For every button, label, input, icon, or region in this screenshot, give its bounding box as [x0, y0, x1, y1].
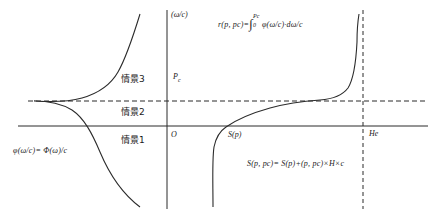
integral-integrand: φ(ω/c): [262, 20, 284, 29]
integral-upper-limit: Pc: [253, 13, 260, 19]
integral-formula: r(p, pc)=∫Pc0 φ(ω/c)·dω/c: [218, 16, 303, 29]
threshold-label: Pc: [173, 73, 181, 83]
density-formula-lhs: φ(ω/c)=: [13, 146, 41, 155]
integral-limits: Pc0: [253, 15, 260, 27]
region-label-scenario-1: 情景1: [121, 136, 145, 145]
integral-formula-lhs: r(p, pc)=: [218, 20, 249, 29]
density-formula-rhs: Φ(ω)/c: [43, 146, 67, 155]
integral-measure: ·dω/c: [284, 20, 302, 29]
diagram-svg: [0, 0, 432, 218]
integral-lower-limit: 0: [253, 22, 260, 28]
origin-label: O: [171, 131, 177, 139]
supply-formula-lhs: S(p, pc)=: [247, 159, 279, 168]
vertical-axis-label: (ω/c): [171, 11, 188, 19]
region-label-scenario-2: 情景2: [121, 108, 145, 117]
region-label-scenario-3: 情景3: [121, 75, 145, 84]
supply-formula: S(p, pc)= S(p)+(p, pc)×H×c: [247, 160, 344, 168]
boundary-label: He: [369, 130, 378, 138]
density-formula: φ(ω/c)= Φ(ω)/c: [13, 147, 67, 155]
supply-formula-rhs: S(p)+(p, pc)×H×c: [281, 159, 344, 168]
supply-axis-label: S(p): [228, 131, 241, 139]
figure-canvas: (ω/c) O Pc S(p) He 情景3 情景2 情景1 φ(ω/c)= Φ…: [0, 0, 432, 218]
threshold-label-sub: c: [178, 77, 181, 83]
supply-curve: [213, 14, 359, 207]
